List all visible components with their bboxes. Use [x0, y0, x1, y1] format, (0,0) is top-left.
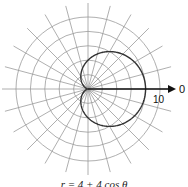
polar-plot: 0 10	[0, 0, 188, 187]
zero-angle-label: 0	[179, 83, 185, 95]
equation-caption: r = 4 + 4 cos θ	[0, 178, 188, 187]
axis-arrow-icon	[168, 85, 176, 93]
r-tick-label: 10	[153, 94, 165, 105]
